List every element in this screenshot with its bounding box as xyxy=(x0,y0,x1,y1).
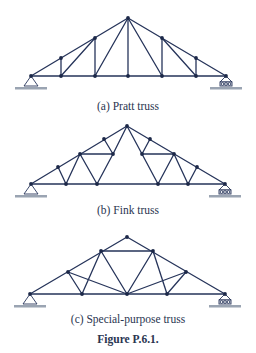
truss-member xyxy=(127,251,153,294)
truss-joint xyxy=(223,182,227,186)
truss-joint xyxy=(125,235,129,239)
truss-joint xyxy=(56,165,60,169)
truss-joint xyxy=(151,249,155,253)
truss-joint xyxy=(184,270,188,274)
truss-joint xyxy=(80,292,84,296)
truss-joint xyxy=(93,74,97,78)
truss-joint xyxy=(160,36,164,40)
truss-joint xyxy=(66,270,70,274)
truss-joint xyxy=(29,182,33,186)
roller-support-icon xyxy=(210,76,242,90)
truss-joint xyxy=(140,152,144,156)
truss-joint xyxy=(126,16,130,20)
truss-member xyxy=(142,154,158,184)
truss-joint xyxy=(78,152,82,156)
roller-support-icon xyxy=(209,294,241,308)
truss-panel-a xyxy=(15,16,242,89)
truss-joint xyxy=(186,182,190,186)
caption-fink-truss: (b) Fink truss xyxy=(0,204,256,216)
truss-joint xyxy=(29,74,33,78)
truss-drawings xyxy=(0,0,256,353)
figure-title: Figure P.6.1. xyxy=(0,333,256,345)
truss-joint xyxy=(125,124,129,128)
truss-joint xyxy=(28,292,32,296)
roller-support-icon xyxy=(209,184,241,198)
truss-member xyxy=(68,272,127,294)
caption-special-purpose-truss: (c) Special-purpose truss xyxy=(0,313,256,325)
truss-joint xyxy=(165,292,169,296)
truss-joint xyxy=(148,137,152,141)
truss-member xyxy=(31,18,128,76)
truss-joint xyxy=(59,56,63,60)
truss-member xyxy=(97,154,113,184)
truss-member xyxy=(128,18,162,76)
truss-member xyxy=(127,237,225,294)
truss-member xyxy=(142,139,150,154)
truss-member xyxy=(104,139,113,154)
truss-joint xyxy=(160,74,164,78)
truss-joint xyxy=(125,292,129,296)
truss-member xyxy=(95,18,128,76)
truss-joint xyxy=(126,74,130,78)
truss-member xyxy=(128,18,226,76)
truss-figure: (a) Pratt truss (b) Fink truss (c) Speci… xyxy=(0,0,256,353)
truss-member xyxy=(58,167,66,184)
truss-joint xyxy=(172,152,176,156)
truss-joint xyxy=(64,182,68,186)
truss-joint xyxy=(59,74,63,78)
truss-joint xyxy=(194,56,198,60)
pin-support-icon xyxy=(15,184,47,198)
pin-support-icon xyxy=(15,76,47,90)
truss-joint xyxy=(223,292,227,296)
truss-member xyxy=(162,38,196,76)
truss-panel-b xyxy=(15,124,241,197)
truss-panel-c xyxy=(14,235,241,307)
truss-joint xyxy=(102,137,106,141)
truss-member xyxy=(101,251,127,294)
truss-member xyxy=(80,154,97,184)
truss-joint xyxy=(156,182,160,186)
truss-joint xyxy=(93,36,97,40)
truss-member xyxy=(153,251,167,294)
pin-support-icon xyxy=(14,294,46,308)
truss-member xyxy=(188,167,197,184)
truss-joint xyxy=(111,152,115,156)
truss-joint xyxy=(95,182,99,186)
truss-member xyxy=(61,38,95,76)
truss-joint xyxy=(195,165,199,169)
truss-joint xyxy=(194,74,198,78)
truss-member xyxy=(30,237,127,294)
caption-pratt-truss: (a) Pratt truss xyxy=(0,100,256,112)
truss-joint xyxy=(99,249,103,253)
truss-member xyxy=(158,154,174,184)
truss-joint xyxy=(224,74,228,78)
